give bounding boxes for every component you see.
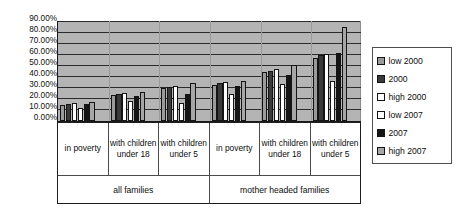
bar-2007-g5	[286, 75, 291, 121]
bar-low-2007-g5	[280, 84, 285, 121]
category-cell-2: with children under 18	[109, 123, 160, 175]
bar-low-2000-g4	[212, 85, 217, 121]
bar-high-2007-g6	[342, 27, 347, 121]
bar-2007-g2	[134, 96, 139, 121]
y-tick-70: 70.00%	[29, 37, 57, 45]
bar-group-5	[260, 21, 311, 121]
square-swatch-icon	[377, 57, 385, 65]
bar-2000-g2	[116, 94, 121, 121]
square-swatch-icon	[377, 75, 385, 83]
y-tick-80: 80.00%	[29, 26, 57, 34]
category-axis-table: in poverty with children under 18 with c…	[57, 122, 361, 204]
bar-low-2007-g1	[78, 108, 83, 121]
bar-high-2007-g3	[190, 83, 195, 121]
legend-label: low 2007	[389, 110, 423, 120]
bar-2000-g3	[167, 87, 172, 121]
bar-high-2007-g1	[89, 102, 94, 121]
y-tick-20: 20.00%	[29, 92, 57, 100]
category-cell-5: with children under 18	[260, 123, 311, 175]
bar-group-1	[58, 21, 109, 121]
y-tick-90: 90.00%	[29, 15, 57, 23]
bar-2000-g1	[66, 104, 71, 121]
bar-low-2007-g2	[128, 101, 133, 121]
legend-item-high-2000[interactable]: high 2000	[377, 88, 448, 106]
bar-2000-g5	[268, 71, 273, 122]
bar-low-2000-g3	[161, 88, 166, 121]
supercategory-all-families: all families	[58, 176, 210, 203]
y-tick-30: 30.00%	[29, 81, 57, 89]
y-tick-50: 50.00%	[29, 59, 57, 67]
bar-group-6	[311, 21, 362, 121]
bar-low-2007-g3	[179, 103, 184, 121]
plot-inner	[58, 21, 361, 121]
bar-low-2000-g6	[313, 58, 318, 121]
y-tick-40: 40.00%	[29, 70, 57, 78]
legend-label: 2007	[389, 128, 408, 138]
legend-label: 2000	[389, 74, 408, 84]
bar-high-2007-g2	[140, 92, 145, 121]
supercategory-row: all families mother headed families	[58, 175, 360, 203]
bar-high-2000-g6	[324, 54, 329, 121]
bar-2007-g3	[185, 94, 190, 121]
bar-high-2000-g2	[122, 93, 127, 121]
legend-label: low 2000	[389, 56, 423, 66]
legend-item-2007[interactable]: 2007	[377, 124, 448, 142]
category-cell-6: with children under 5	[311, 123, 361, 175]
y-tick-60: 60.00%	[29, 48, 57, 56]
bar-low-2000-g5	[262, 72, 267, 121]
y-axis: 90.00% 80.00% 70.00% 60.00% 50.00% 40.00…	[2, 18, 57, 124]
square-swatch-icon	[377, 111, 385, 119]
legend: low 20002000high 2000low 20072007high 20…	[372, 47, 452, 164]
bar-low-2000-g2	[111, 95, 116, 121]
bar-high-2007-g4	[241, 81, 246, 121]
square-swatch-icon	[377, 147, 385, 155]
bar-low-2000-g1	[60, 105, 65, 121]
bar-2000-g4	[217, 83, 222, 121]
y-tick-0: 0.00%	[34, 114, 57, 122]
legend-item-low-2000[interactable]: low 2000	[377, 52, 448, 70]
category-cell-1: in poverty	[58, 123, 109, 175]
bar-high-2000-g3	[173, 86, 178, 121]
legend-item-2000[interactable]: 2000	[377, 70, 448, 88]
bar-group-3	[159, 21, 210, 121]
bar-2000-g6	[318, 55, 323, 121]
legend-label: high 2007	[389, 146, 427, 156]
bar-groups	[58, 21, 361, 121]
bar-2007-g4	[235, 86, 240, 121]
bar-high-2000-g5	[274, 69, 279, 121]
bar-low-2007-g6	[330, 81, 335, 121]
legend-item-low-2007[interactable]: low 2007	[377, 106, 448, 124]
chart-figure: 90.00% 80.00% 70.00% 60.00% 50.00% 40.00…	[0, 0, 456, 211]
bar-2007-g1	[84, 104, 89, 121]
top-artifact-text	[0, 0, 456, 14]
supercategory-mother-headed-families: mother headed families	[210, 176, 361, 203]
category-cell-3: with children under 5	[159, 123, 210, 175]
bar-high-2000-g4	[223, 82, 228, 121]
bar-high-2000-g1	[72, 103, 77, 121]
square-swatch-icon	[377, 93, 385, 101]
y-tick-10: 10.00%	[29, 103, 57, 111]
category-row: in poverty with children under 18 with c…	[58, 123, 360, 175]
square-swatch-icon	[377, 129, 385, 137]
bar-high-2007-g5	[291, 65, 296, 121]
plot-area	[57, 21, 361, 122]
bar-group-2	[109, 21, 160, 121]
bar-group-4	[210, 21, 261, 121]
bar-low-2007-g4	[229, 94, 234, 121]
bar-2007-g6	[336, 53, 341, 121]
legend-item-high-2007[interactable]: high 2007	[377, 142, 448, 160]
legend-label: high 2000	[389, 92, 427, 102]
category-cell-4: in poverty	[210, 123, 261, 175]
